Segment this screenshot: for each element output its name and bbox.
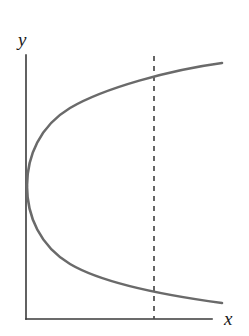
- parabola-vertical-line-test-plot: y x: [0, 0, 249, 336]
- x-axis-label: x: [223, 308, 233, 329]
- figure-canvas: y x: [0, 0, 249, 336]
- y-axis-label: y: [16, 29, 27, 50]
